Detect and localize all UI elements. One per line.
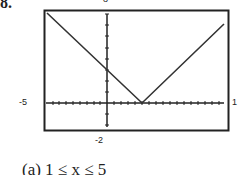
v-graph-line: [47, 13, 224, 103]
graph: [0, 0, 239, 175]
window-frame: [45, 11, 229, 131]
caption: (a) 1 ≤ x ≤ 5: [22, 160, 106, 175]
